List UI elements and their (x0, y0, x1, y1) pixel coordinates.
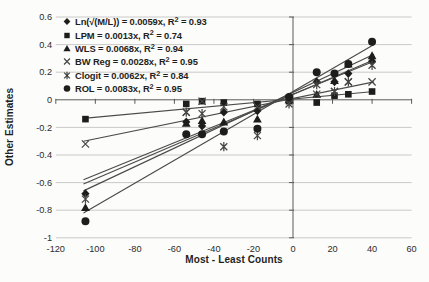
circle-marker (198, 130, 206, 138)
y-tick-label: -1 (44, 233, 52, 243)
circle-marker (81, 217, 89, 225)
y-tick-label: 0.2 (39, 67, 52, 77)
asterisk-marker (64, 71, 70, 79)
square-legend-icon (61, 30, 73, 41)
asterisk-marker (183, 108, 190, 117)
y-tick-label: -0.8 (36, 205, 52, 215)
legend-item: BW Reg = 0.0028x, R2 = 0.95 (61, 55, 207, 68)
x-tick-label: -100 (86, 244, 104, 254)
circle-marker (368, 38, 376, 46)
y-axis-title: Other Estimates (4, 88, 15, 166)
y-tick-label: 0.4 (39, 40, 52, 50)
legend-label: ROL = 0.0083x, R2 = 0.95 (75, 83, 182, 94)
y-tick-label: -0.4 (36, 150, 52, 160)
x-legend-icon (61, 56, 73, 67)
legend-label: BW Reg = 0.0028x, R2 = 0.95 (75, 56, 198, 67)
circle-marker (285, 93, 293, 101)
circle-marker (344, 60, 352, 68)
legend-item: Clogit = 0.0062x, R2 = 0.84 (61, 69, 207, 82)
x-marker (82, 140, 89, 147)
x-tick-label: 0 (290, 244, 295, 254)
x-tick-label: -60 (168, 244, 181, 254)
y-tick-label: 0.6 (39, 12, 52, 22)
x-tick-label: 60 (406, 244, 416, 254)
y-tick-label: -0.2 (36, 123, 52, 133)
triangle-marker (253, 115, 262, 123)
y-tick-label: 0 (47, 95, 52, 105)
square-marker (345, 91, 352, 98)
x-marker (64, 59, 70, 65)
figure-container: -120-100-80-60-40-2002040600.60.40.20-0.… (0, 0, 429, 282)
legend-label: LPM = 0.0013x, R2 = 0.74 (75, 30, 182, 41)
circle-marker (182, 130, 190, 138)
square-marker (183, 101, 190, 108)
x-tick-label: 40 (367, 244, 377, 254)
diamond-legend-icon (61, 16, 73, 27)
legend-label: Ln(√(M/L)) = 0.0059x, R2 = 0.93 (75, 16, 207, 27)
x-tick-label: -20 (247, 244, 260, 254)
circle-marker (313, 68, 321, 76)
trendline-LPM (83, 92, 374, 119)
square-marker (369, 88, 376, 95)
x-tick-label: -120 (47, 244, 65, 254)
x-tick-label: -40 (207, 244, 220, 254)
square-marker (82, 116, 89, 123)
circle-marker (64, 85, 71, 92)
legend-item: LPM = 0.0013x, R2 = 0.74 (61, 28, 207, 41)
circle-legend-icon (61, 83, 73, 94)
asterisk-marker (220, 142, 227, 151)
triangle-marker (368, 51, 377, 59)
y-tick-label: -0.6 (36, 178, 52, 188)
circle-marker (331, 70, 339, 78)
circle-marker (253, 125, 261, 133)
diamond-marker (64, 18, 71, 25)
asterisk-legend-icon (61, 70, 73, 81)
legend-label: WLS = 0.0068x, R2 = 0.94 (75, 43, 183, 54)
chart-legend: Ln(√(M/L)) = 0.0059x, R2 = 0.93LPM = 0.0… (61, 15, 207, 95)
x-axis-title: Most - Least Counts (56, 254, 412, 265)
legend-item: Ln(√(M/L)) = 0.0059x, R2 = 0.93 (61, 15, 207, 28)
asterisk-marker (199, 109, 206, 118)
square-marker (64, 32, 69, 37)
x-marker (368, 78, 375, 85)
asterisk-marker (331, 87, 338, 96)
legend-label: Clogit = 0.0062x, R2 = 0.84 (75, 70, 188, 81)
triangle-marker (63, 45, 70, 51)
triangle-marker (81, 203, 90, 211)
asterisk-marker (313, 80, 320, 89)
legend-item: WLS = 0.0068x, R2 = 0.94 (61, 42, 207, 55)
legend-item: ROL = 0.0083x, R2 = 0.95 (61, 82, 207, 95)
circle-marker (220, 128, 228, 136)
x-tick-label: -80 (128, 244, 141, 254)
asterisk-marker (369, 61, 376, 70)
square-marker (313, 99, 320, 106)
asterisk-marker (82, 195, 89, 204)
triangle-legend-icon (61, 43, 73, 54)
asterisk-marker (345, 77, 352, 86)
x-tick-label: 20 (327, 244, 337, 254)
